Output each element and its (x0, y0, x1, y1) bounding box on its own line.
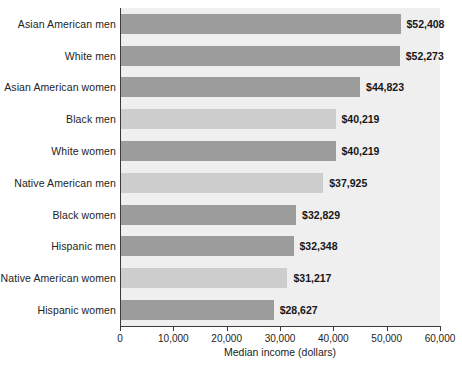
bar-value-label: $40,219 (342, 145, 380, 157)
category-label: Asian American men (18, 18, 116, 30)
category-label: Native American men (14, 177, 116, 189)
bar-value-label: $32,829 (302, 209, 340, 221)
bar (121, 236, 294, 256)
bar-value-label: $31,217 (293, 272, 331, 284)
x-tick-label: 10,000 (158, 333, 189, 344)
category-label: White men (65, 50, 116, 62)
x-axis-title: Median income (dollars) (120, 346, 440, 358)
category-label: Hispanic men (51, 240, 116, 252)
bar (121, 77, 360, 97)
x-axis-ticks: 010,00020,00030,00040,00050,00060,000 (0, 326, 462, 346)
x-tick-label: 40,000 (318, 333, 349, 344)
bar (121, 14, 401, 34)
bar-row: White women$40,219 (0, 135, 462, 167)
x-tick-label: 60,000 (425, 333, 456, 344)
bar-row: Hispanic women$28,627 (0, 294, 462, 326)
x-tick-label: 20,000 (211, 333, 242, 344)
bar (121, 268, 287, 288)
bar-row: Hispanic men$32,348 (0, 231, 462, 263)
bar-value-label: $44,823 (366, 81, 404, 93)
bar-value-label: $37,925 (329, 177, 367, 189)
x-tick-mark (227, 326, 228, 331)
x-tick-mark (280, 326, 281, 331)
bar-row: Native American women$31,217 (0, 262, 462, 294)
bar (121, 109, 336, 129)
bar-row: Asian American women$44,823 (0, 72, 462, 104)
median-income-bar-chart: Asian American men$52,408White men$52,27… (0, 0, 462, 367)
x-tick-mark (333, 326, 334, 331)
x-tick-label: 30,000 (265, 333, 296, 344)
bar (121, 46, 400, 66)
x-tick-mark (440, 326, 441, 331)
bar-value-label: $32,348 (300, 240, 338, 252)
x-tick-mark (120, 326, 121, 331)
y-axis-line (120, 8, 121, 326)
bar-rows-container: Asian American men$52,408White men$52,27… (0, 8, 462, 326)
x-tick-mark (173, 326, 174, 331)
bar-value-label: $40,219 (342, 113, 380, 125)
category-label: White women (51, 145, 116, 157)
x-tick-mark (387, 326, 388, 331)
bar-row: Native American men$37,925 (0, 167, 462, 199)
bar-row: Asian American men$52,408 (0, 8, 462, 40)
category-label: Black men (66, 113, 116, 125)
bar-value-label: $28,627 (280, 304, 318, 316)
bar-row: Black men$40,219 (0, 103, 462, 135)
category-label: Native American women (1, 272, 116, 284)
category-label: Black women (52, 209, 116, 221)
bar (121, 173, 323, 193)
bar (121, 300, 274, 320)
category-label: Hispanic women (37, 304, 116, 316)
x-tick-label: 50,000 (371, 333, 402, 344)
category-label: Asian American women (4, 81, 116, 93)
bar-row: White men$52,273 (0, 40, 462, 72)
bar (121, 205, 296, 225)
bar (121, 141, 336, 161)
x-tick-label: 0 (117, 333, 123, 344)
bar-value-label: $52,408 (407, 18, 445, 30)
bar-value-label: $52,273 (406, 50, 444, 62)
bar-row: Black women$32,829 (0, 199, 462, 231)
